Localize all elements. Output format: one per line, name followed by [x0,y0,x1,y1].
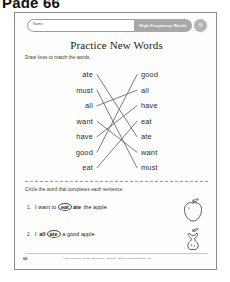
instruction-circle: Circle the word that completes each sent… [25,187,124,192]
answer-choice-plain[interactable]: all [38,231,46,237]
answer-choice-circled[interactable]: eat [58,203,72,211]
matching-word-left[interactable]: ate [35,67,93,83]
matching-word-left[interactable]: want [35,114,93,130]
sentence-after: the apple. [84,204,109,210]
footer-credit: High-Frequency Words: Stories and Activi… [63,257,213,260]
matching-word-right[interactable]: want [141,145,199,161]
apple-illustration-icon [181,197,205,223]
name-field-label: Name [33,22,43,26]
matching-word-right[interactable]: ate [141,129,199,145]
worksheet-title: Practice New Words [15,39,218,51]
footer-page-number: 66 [23,256,27,261]
matching-word-right[interactable]: have [141,98,199,114]
name-field[interactable]: Name [27,19,135,32]
matching-right-column: goodallhaveeatatewantmust [141,67,199,176]
matching-word-left[interactable]: must [35,83,93,99]
apple-core-illustration-icon [181,227,205,253]
sentence-item: 2.I allate a good apple. [27,230,177,242]
section-divider [25,181,208,182]
sentence-after: a good apple. [62,231,96,237]
matching-word-right[interactable]: good [141,67,199,83]
page-caption: Page 66 [2,0,60,8]
matching-word-left[interactable]: all [35,98,93,114]
sentence-before: I want to [35,204,56,210]
lesson-number-badge: 9 [193,18,208,33]
strand-badge: High-Frequency Words [134,19,192,32]
matching-line [97,121,137,152]
matching-line [97,75,137,153]
footer-rule [25,253,208,254]
lesson-number-label: 9 [194,19,207,32]
worksheet-header: Name High-Frequency Words 9 [27,19,207,32]
sentence-before: I [35,231,37,237]
strand-badge-label: High-Frequency Words [134,19,192,32]
matching-word-right[interactable]: must [141,160,199,176]
sentence-number: 2. [27,232,35,237]
worksheet-sheet: Name High-Frequency Words 9 Practice New… [14,12,217,270]
matching-left-column: atemustallwanthavegoodeat [35,67,93,176]
matching-line [97,75,137,137]
matching-word-left[interactable]: good [35,145,93,161]
matching-exercise: atemustallwanthavegoodeat goodallhaveeat… [25,63,208,173]
answer-choice-circled[interactable]: ate [47,230,61,238]
instruction-match: Draw lines to match the words. [25,55,91,60]
matching-word-right[interactable]: all [141,83,199,99]
matching-line [97,106,137,137]
matching-word-left[interactable]: eat [35,160,93,176]
answer-choice-plain[interactable]: ate [72,204,82,210]
sentence-item: 1.I want to eatate the apple. [27,203,177,215]
matching-word-right[interactable]: eat [141,114,199,130]
matching-line [97,90,137,106]
sentence-number: 1. [27,205,35,210]
matching-line [97,90,137,168]
matching-word-left[interactable]: have [35,129,93,145]
